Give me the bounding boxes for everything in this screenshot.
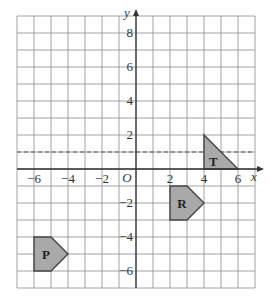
shape-label: T (209, 154, 218, 169)
y-tick-label: −6 (119, 263, 133, 278)
y-axis-arrow-icon (133, 9, 139, 16)
y-tick-label: 8 (127, 25, 134, 40)
shape-label: R (177, 196, 187, 211)
x-axis-arrow-icon (257, 166, 264, 172)
shape-polygon (170, 186, 204, 220)
shape-p: P (34, 237, 68, 271)
shape-polygon (34, 237, 68, 271)
x-axis-label: x (250, 169, 257, 184)
x-tick-label: 4 (201, 171, 208, 186)
origin-label: O (122, 170, 132, 185)
coordinate-grid-diagram: TRP xyO−6−4−22468642−2−4−6 (0, 0, 270, 304)
shape-r: R (170, 186, 204, 220)
x-tick-label: −2 (95, 171, 109, 186)
y-tick-label: 2 (127, 127, 134, 142)
y-tick-label: −2 (119, 195, 133, 210)
x-tick-label: 6 (235, 171, 242, 186)
y-tick-label: 4 (127, 93, 134, 108)
shape-label: P (42, 247, 50, 262)
x-tick-label: −6 (27, 171, 41, 186)
y-tick-label: −4 (119, 229, 133, 244)
grid-svg: TRP xyO−6−4−22468642−2−4−6 (0, 0, 270, 304)
x-tick-label: 2 (167, 171, 174, 186)
x-tick-label: −4 (61, 171, 75, 186)
y-tick-label: 6 (127, 59, 134, 74)
y-axis-label: y (122, 5, 130, 20)
